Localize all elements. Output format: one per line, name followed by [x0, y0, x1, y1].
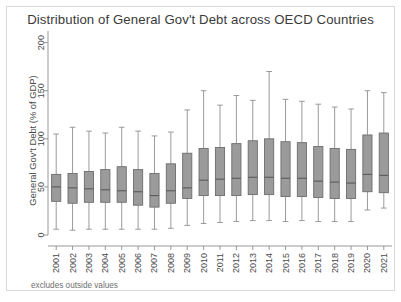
x-tick-label: 2005	[117, 253, 127, 273]
x-tick-label: 2016	[297, 253, 307, 273]
box-plot-item	[232, 96, 241, 222]
box-plot-item	[134, 131, 143, 229]
box-plot-item	[150, 136, 159, 229]
y-tick-label: 150	[36, 83, 46, 98]
box-plot-item	[379, 93, 388, 208]
x-tick-label: 2009	[182, 253, 192, 273]
y-axis-ticks: 050100150200	[36, 35, 48, 237]
x-tick-label: 2014	[264, 253, 274, 273]
x-tick-label: 2021	[379, 253, 389, 273]
box-plot-item	[314, 104, 323, 221]
box-plot-item	[117, 127, 126, 229]
box-plot-item	[363, 91, 372, 210]
x-tick-label: 2007	[149, 253, 159, 273]
box-plot-item	[215, 105, 224, 222]
box-plot-item	[281, 99, 290, 221]
box-plot-item	[68, 127, 77, 230]
y-tick-label: 100	[36, 131, 46, 146]
x-tick-label: 2006	[133, 253, 143, 273]
box-series	[52, 71, 389, 230]
x-tick-label: 2012	[231, 253, 241, 273]
x-tick-label: 2001	[51, 253, 61, 273]
y-tick-label: 50	[36, 182, 46, 192]
box-plot-item	[297, 101, 306, 220]
x-tick-label: 2002	[68, 253, 78, 273]
x-axis-ticks: 2001200220032004200520062007200820092010…	[51, 246, 389, 273]
x-tick-label: 2018	[330, 253, 340, 273]
x-tick-label: 2020	[362, 253, 372, 273]
x-tick-label: 2010	[199, 253, 209, 273]
x-tick-label: 2004	[100, 253, 110, 273]
chart-screenshot: Distribution of General Gov't Debt acros…	[0, 0, 401, 302]
y-tick-label: 0	[36, 232, 46, 237]
x-tick-label: 2015	[281, 253, 291, 273]
box-plot-item	[199, 91, 208, 224]
box-plot-item	[265, 71, 274, 220]
box-plot-item	[166, 132, 175, 228]
x-tick-label: 2008	[166, 253, 176, 273]
box-plot-item	[248, 100, 257, 220]
x-tick-label: 2013	[248, 253, 258, 273]
box-plot-item	[346, 109, 355, 222]
chart-footnote: excludes outside values	[31, 281, 118, 290]
x-tick-label: 2019	[346, 253, 356, 273]
x-tick-label: 2003	[84, 253, 94, 273]
box-plot-item	[330, 107, 339, 221]
box-plot-item	[52, 134, 61, 229]
boxplot-canvas: 050100150200 200120022003200420052006200…	[0, 0, 401, 302]
x-tick-label: 2017	[313, 253, 323, 273]
box-plot-item	[101, 133, 110, 229]
x-tick-label: 2011	[215, 253, 225, 272]
box-plot-item	[84, 131, 93, 229]
y-tick-label: 200	[36, 35, 46, 50]
box-plot-item	[183, 110, 192, 225]
